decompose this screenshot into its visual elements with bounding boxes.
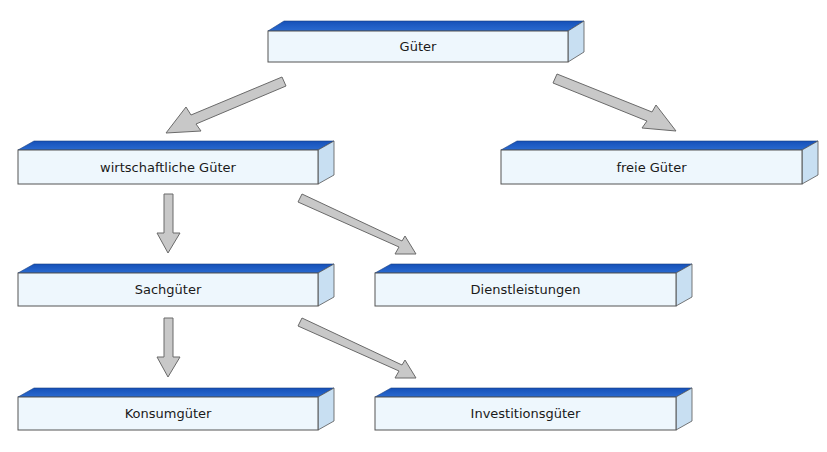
arrow-icon-wirtschaftliche-to-sachgueter	[157, 194, 180, 253]
diagram-canvas	[0, 0, 827, 452]
arrow-icon-wirtschaftliche-to-dienstleistungen	[298, 194, 416, 254]
node-konsumgueter: Konsumgüter	[18, 397, 318, 430]
arrow-icon-sachgueter-to-investitionsgueter	[298, 318, 416, 378]
node-label: freie Güter	[616, 160, 686, 175]
node-dienstleistungen: Dienstleistungen	[375, 273, 676, 306]
node-label: wirtschaftliche Güter	[100, 160, 236, 175]
node-label: Konsumgüter	[125, 406, 212, 421]
arrow-icon-sachgueter-to-konsumgueter	[157, 318, 180, 377]
arrow-icon-gueter-to-freie	[553, 74, 676, 131]
node-investitionsgueter: Investitionsgüter	[375, 397, 676, 430]
node-freie-gueter: freie Güter	[501, 150, 802, 184]
node-label: Investitionsgüter	[471, 406, 581, 421]
node-label: Dienstleistungen	[471, 282, 581, 297]
node-sachgueter: Sachgüter	[18, 273, 318, 306]
arrow-icon-gueter-to-wirtschaftliche	[166, 77, 286, 133]
node-label: Güter	[400, 39, 437, 54]
node-gueter: Güter	[268, 31, 568, 62]
node-label: Sachgüter	[135, 282, 202, 297]
node-wirtschaftliche-gueter: wirtschaftliche Güter	[18, 150, 318, 184]
